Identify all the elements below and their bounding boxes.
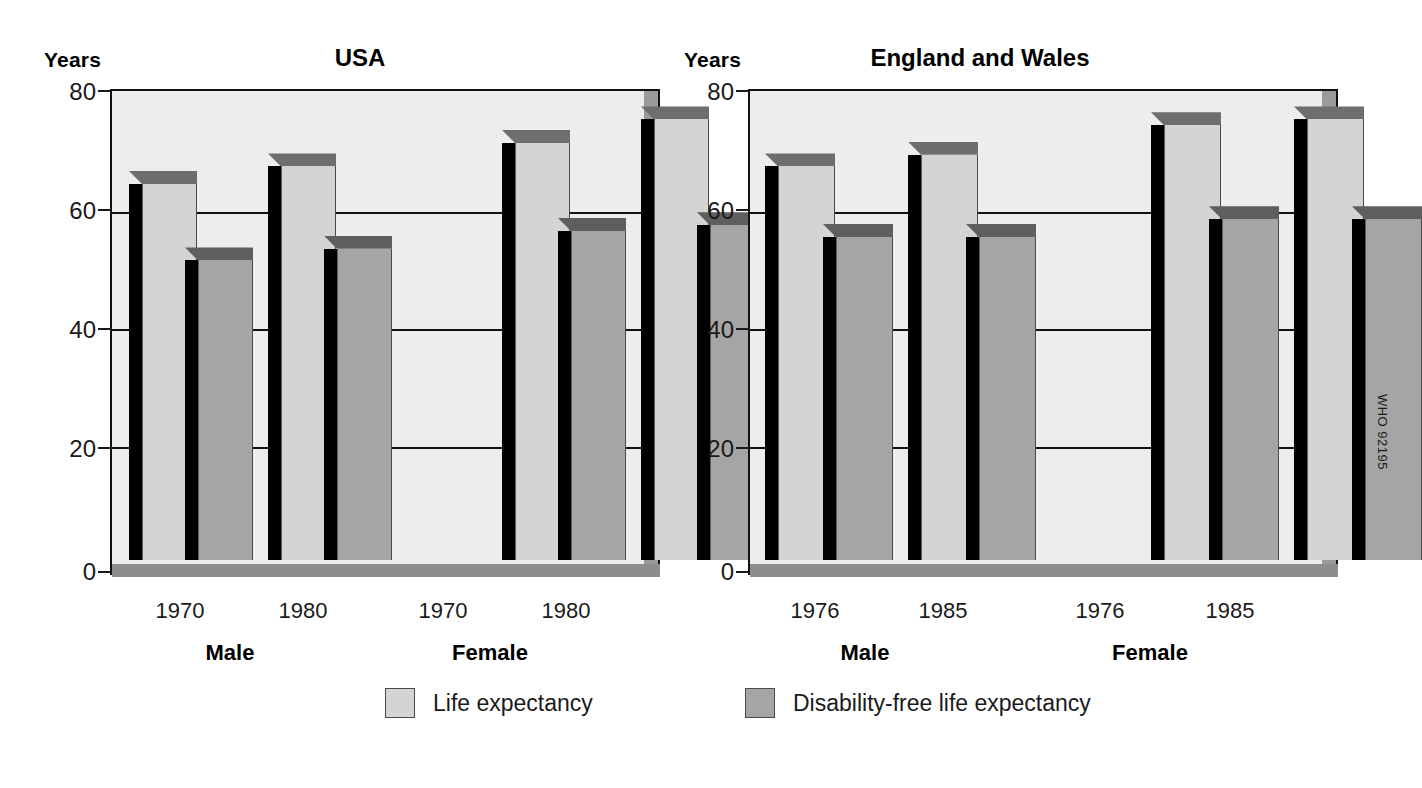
group-label-ew-female: Female: [1060, 640, 1240, 666]
bar-top-face: [765, 153, 835, 166]
chart-panel-usa: Years USA 80 60 40 20 0 1970 1980 1970 1…: [0, 0, 680, 700]
legend-label-life-expectancy: Life expectancy: [433, 690, 593, 717]
y-tick-label-usa-2: 40: [38, 316, 96, 344]
plot-area-ew: [748, 89, 1338, 575]
bar-side-face: [185, 260, 198, 560]
bar-side-face: [502, 143, 515, 560]
y-tick-mark-usa-0: [98, 90, 111, 92]
bar-top-face: [268, 153, 336, 166]
chart-title-usa: USA: [230, 44, 490, 72]
y-tick-label-usa-3: 20: [38, 435, 96, 463]
plot-area-usa: [110, 89, 660, 575]
bar-front-face: [1222, 219, 1279, 560]
bar-side-face: [641, 119, 654, 560]
y-tick-label-usa-1: 60: [38, 197, 96, 225]
y-tick-mark-ew-2: [736, 328, 749, 330]
bar-side-face: [1209, 219, 1222, 560]
bar-side-face: [765, 166, 778, 560]
x-tick-label-ew-0: 1976: [765, 598, 865, 624]
y-tick-label-ew-1: 60: [676, 197, 734, 225]
bar-top-face: [908, 142, 978, 155]
x-tick-label-ew-1: 1985: [893, 598, 993, 624]
plot-floor: [112, 564, 660, 577]
bar-side-face: [268, 166, 281, 560]
bar-top-face: [1294, 106, 1364, 119]
bar-disability-free-1985-Male: [979, 237, 1036, 560]
bar-disability-free-1970-Male: [198, 260, 253, 560]
bar-front-face: [571, 231, 626, 560]
bar-side-face: [1151, 125, 1164, 560]
x-tick-label-usa-1: 1980: [253, 598, 353, 624]
y-tick-label-ew-2: 40: [676, 316, 734, 344]
bar-disability-free-1976-Female: [1222, 219, 1279, 560]
legend-item-disability-free: Disability-free life expectancy: [745, 688, 1091, 718]
x-tick-label-ew-3: 1985: [1180, 598, 1280, 624]
group-label-usa-female: Female: [400, 640, 580, 666]
y-tick-mark-usa-4: [98, 571, 111, 573]
bar-top-face: [1151, 112, 1221, 125]
x-tick-label-usa-2: 1970: [393, 598, 493, 624]
y-tick-label-ew-0: 80: [676, 78, 734, 106]
legend-item-life-expectancy: Life expectancy: [385, 688, 593, 718]
y-tick-mark-ew-3: [736, 447, 749, 449]
y-tick-mark-usa-2: [98, 328, 111, 330]
bar-front-face: [1365, 219, 1422, 560]
y-tick-label-usa-0: 80: [38, 78, 96, 106]
y-tick-label-usa-4: 0: [38, 558, 96, 586]
bar-side-face: [966, 237, 979, 560]
bar-top-face: [129, 171, 197, 184]
legend: Life expectancy Disability-free life exp…: [0, 676, 1400, 746]
bar-disability-free-1980-Male: [337, 249, 392, 560]
x-tick-label-usa-3: 1980: [516, 598, 616, 624]
bar-side-face: [558, 231, 571, 560]
x-tick-label-usa-0: 1970: [130, 598, 230, 624]
y-tick-label-ew-4: 0: [676, 558, 734, 586]
plot-floor: [750, 564, 1338, 577]
bar-front-face: [979, 237, 1036, 560]
bar-front-face: [337, 249, 392, 560]
bar-side-face: [823, 237, 836, 560]
source-code-label: WHO 92195: [1375, 394, 1390, 470]
bar-disability-free-1970-Female: [571, 231, 626, 560]
bar-side-face: [1352, 219, 1365, 560]
bar-side-face: [129, 184, 142, 560]
y-tick-label-ew-3: 20: [676, 435, 734, 463]
bar-top-face: [502, 130, 570, 143]
chart-title-ew: England and Wales: [770, 44, 1190, 72]
y-tick-mark-ew-4: [736, 571, 749, 573]
y-axis-caption-usa: Years: [44, 48, 101, 72]
bar-front-face: [836, 237, 893, 560]
bar-disability-free-1976-Male: [836, 237, 893, 560]
bar-side-face: [1294, 119, 1307, 560]
y-tick-mark-usa-3: [98, 447, 111, 449]
y-axis-caption-ew: Years: [684, 48, 741, 72]
group-label-ew-male: Male: [780, 640, 950, 666]
group-label-usa-male: Male: [145, 640, 315, 666]
y-tick-mark-ew-1: [736, 209, 749, 211]
chart-panel-england-wales: Years England and Wales 80 60 40 20 0 19…: [660, 0, 1360, 700]
legend-swatch-life-expectancy: [385, 688, 415, 718]
x-tick-label-ew-2: 1976: [1050, 598, 1150, 624]
y-tick-mark-ew-0: [736, 90, 749, 92]
legend-label-disability-free: Disability-free life expectancy: [793, 690, 1091, 717]
bar-disability-free-1985-Female: [1365, 219, 1422, 560]
y-tick-mark-usa-1: [98, 209, 111, 211]
bar-front-face: [198, 260, 253, 560]
legend-swatch-disability-free: [745, 688, 775, 718]
bar-side-face: [908, 155, 921, 560]
bar-side-face: [324, 249, 337, 560]
